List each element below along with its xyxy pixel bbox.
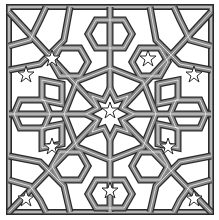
geometric-pattern bbox=[0, 0, 219, 220]
